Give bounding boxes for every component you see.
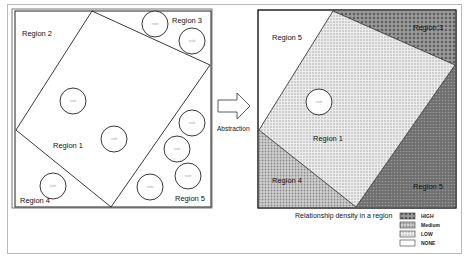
region-label: Region 5 [413,182,443,191]
region-label: Region 1 [53,141,83,150]
left-panel: nodenodenodenodenodenodenodenodenode Reg… [12,9,212,208]
node-label: node [147,185,154,189]
node-circle: node [179,110,205,136]
node-circle: node [175,163,201,189]
region-label: Region 1 [313,134,343,143]
legend-swatch [400,231,415,237]
node-label: node [152,22,159,26]
region-label: Region 4 [272,176,302,185]
node-label: node [189,39,196,43]
abstraction-diagram: nodenodenodenodenodenodenodenodenode Reg… [0,0,465,260]
region-label: Region 4 [20,196,50,205]
node-label: node [50,184,57,188]
right-arrow-icon [218,93,250,119]
node-label: node [189,121,196,125]
abstraction-label: Abstraction [217,125,250,132]
legend-label: Medium [421,222,440,228]
legend-swatch [400,213,415,219]
node-circle: node [306,89,332,115]
node-label: node [316,100,323,104]
legend-item: HIGH [400,213,434,219]
right-panel: node Region 5Region 3Region 1Region 4Reg… [258,10,456,208]
legend-swatch [400,222,415,228]
legend-item: LOW [400,231,433,237]
abstraction-arrow: Abstraction [217,93,250,132]
node-label: node [70,99,77,103]
legend-label: LOW [421,231,433,237]
node-circle: node [60,88,86,114]
node-label: node [111,137,118,141]
node-circle: node [179,28,205,54]
region-label: Region 3 [172,16,202,25]
density-legend: HIGHMediumLOWNONE [400,213,440,246]
node-circle: node [142,11,168,37]
legend-label: HIGH [421,213,434,219]
legend-label: NONE [421,240,436,246]
node-label: node [174,147,181,151]
legend-item: Medium [400,222,440,228]
region-label: Region 5 [272,33,302,42]
legend-caption: Relationship density in a region [295,212,392,220]
node-label: node [185,174,192,178]
region-label: Region 3 [413,23,443,32]
node-circle: node [137,174,163,200]
node-circle: node [164,136,190,162]
region-label: Region 2 [22,29,52,38]
node-circle: node [101,126,127,152]
legend-swatch [400,240,415,246]
right-node-circles: node [306,89,332,115]
region-label: Region 5 [175,194,205,203]
legend-item: NONE [400,240,436,246]
